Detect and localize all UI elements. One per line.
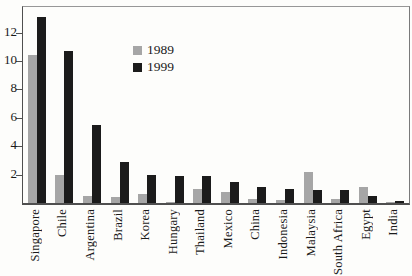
y-tick-label-12: 12	[0, 24, 17, 40]
legend-item-1999: 1999	[133, 60, 174, 74]
bar-india-1999	[395, 201, 404, 203]
bar-argentina-1989	[83, 196, 92, 203]
x-tick-label-brazil: Brazil	[111, 209, 126, 241]
bar-chart-figure: 1989 1999 24681012 SingaporeChileArgenti…	[0, 0, 412, 276]
x-tick-label-hungary: Hungary	[166, 209, 181, 254]
bar-singapore-1999	[37, 17, 46, 203]
bar-indonesia-1999	[285, 189, 294, 203]
legend-label-1999: 1999	[147, 60, 174, 74]
bar-south-africa-1999	[340, 190, 349, 203]
x-axis-labels: SingaporeChileArgentinaBrazilKoreaHungar…	[22, 209, 408, 273]
bar-singapore-1989	[28, 55, 37, 203]
y-tick-label-4: 4	[0, 137, 17, 153]
legend-swatch-1989	[133, 46, 142, 55]
y-axis-labels: 24681012	[0, 6, 18, 202]
bar-egypt-1999	[368, 196, 377, 203]
bar-egypt-1989	[359, 187, 368, 203]
bar-china-1989	[248, 199, 257, 203]
x-tick-label-thailand: Thailand	[193, 209, 208, 255]
legend-item-1989: 1989	[133, 43, 174, 57]
legend: 1989 1999	[133, 43, 174, 74]
bar-korea-1989	[138, 194, 147, 203]
x-tick-label-china: China	[248, 209, 263, 240]
y-tick-label-10: 10	[0, 52, 17, 68]
x-tick-label-india: India	[386, 209, 401, 236]
bar-hungary-1999	[175, 176, 184, 203]
bar-malaysia-1989	[304, 172, 313, 203]
x-tick-label-indonesia: Indonesia	[276, 209, 291, 259]
x-tick-label-korea: Korea	[138, 209, 153, 241]
x-tick-label-singapore: Singapore	[28, 209, 43, 261]
bar-china-1999	[257, 187, 266, 203]
bar-india-1989	[386, 202, 395, 203]
x-tick-label-mexico: Mexico	[221, 209, 236, 248]
bar-south-africa-1989	[331, 199, 340, 203]
x-tick-label-chile: Chile	[55, 209, 70, 237]
bar-brazil-1999	[120, 162, 129, 203]
y-tick-label-6: 6	[0, 109, 17, 125]
legend-label-1989: 1989	[147, 43, 174, 57]
x-tick-label-argentina: Argentina	[83, 209, 98, 261]
plot-area: 1989 1999	[22, 6, 410, 205]
x-tick-label-malaysia: Malaysia	[304, 209, 319, 256]
bar-mexico-1999	[230, 182, 239, 203]
bar-brazil-1989	[111, 197, 120, 203]
bar-malaysia-1999	[313, 190, 322, 203]
x-tick-label-south-africa: South Africa	[331, 209, 346, 275]
bar-mexico-1989	[221, 192, 230, 203]
bar-thailand-1989	[193, 189, 202, 203]
y-tick-label-8: 8	[0, 80, 17, 96]
bar-indonesia-1989	[276, 200, 285, 203]
bar-korea-1999	[147, 175, 156, 203]
bar-chile-1999	[64, 51, 73, 203]
bar-chile-1989	[55, 175, 64, 203]
legend-swatch-1999	[133, 63, 142, 72]
bar-argentina-1999	[92, 125, 101, 203]
bar-thailand-1999	[202, 176, 211, 203]
bar-hungary-1989	[166, 202, 175, 203]
x-tick-label-egypt: Egypt	[359, 209, 374, 240]
y-tick-label-2: 2	[0, 166, 17, 182]
